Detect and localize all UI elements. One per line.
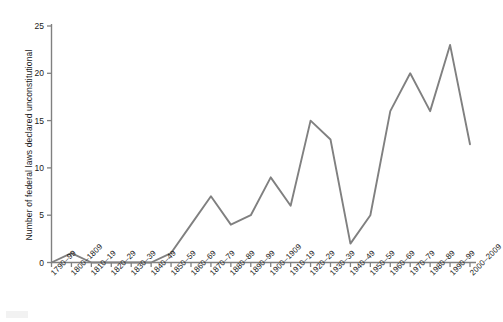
data-series-line (52, 45, 471, 263)
corner-artifact (6, 311, 28, 318)
